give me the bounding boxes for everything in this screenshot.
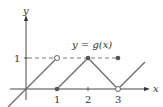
y-axis-label: y: [22, 5, 29, 16]
closed-point-1-0: [55, 87, 60, 92]
open-point-3-0: [116, 87, 121, 92]
function-graph: y x 1 2 3 1 y = g(x): [0, 0, 163, 107]
closed-point-2-1: [86, 56, 91, 61]
function-label: y = g(x): [71, 39, 112, 50]
segment-3: [120, 62, 145, 87]
x-axis-label: x: [153, 83, 159, 94]
open-point-1-1: [55, 56, 60, 61]
tick-label-x3: 3: [115, 94, 121, 105]
segment-2: [57, 58, 116, 89]
tick-label-x1: 1: [54, 94, 60, 105]
closed-point-3-1: [116, 56, 121, 61]
tick-label-y1: 1: [14, 53, 20, 64]
x-axis-arrow-icon: [144, 87, 150, 91]
segment-1: [8, 60, 55, 107]
tick-label-x2: 2: [85, 94, 91, 105]
